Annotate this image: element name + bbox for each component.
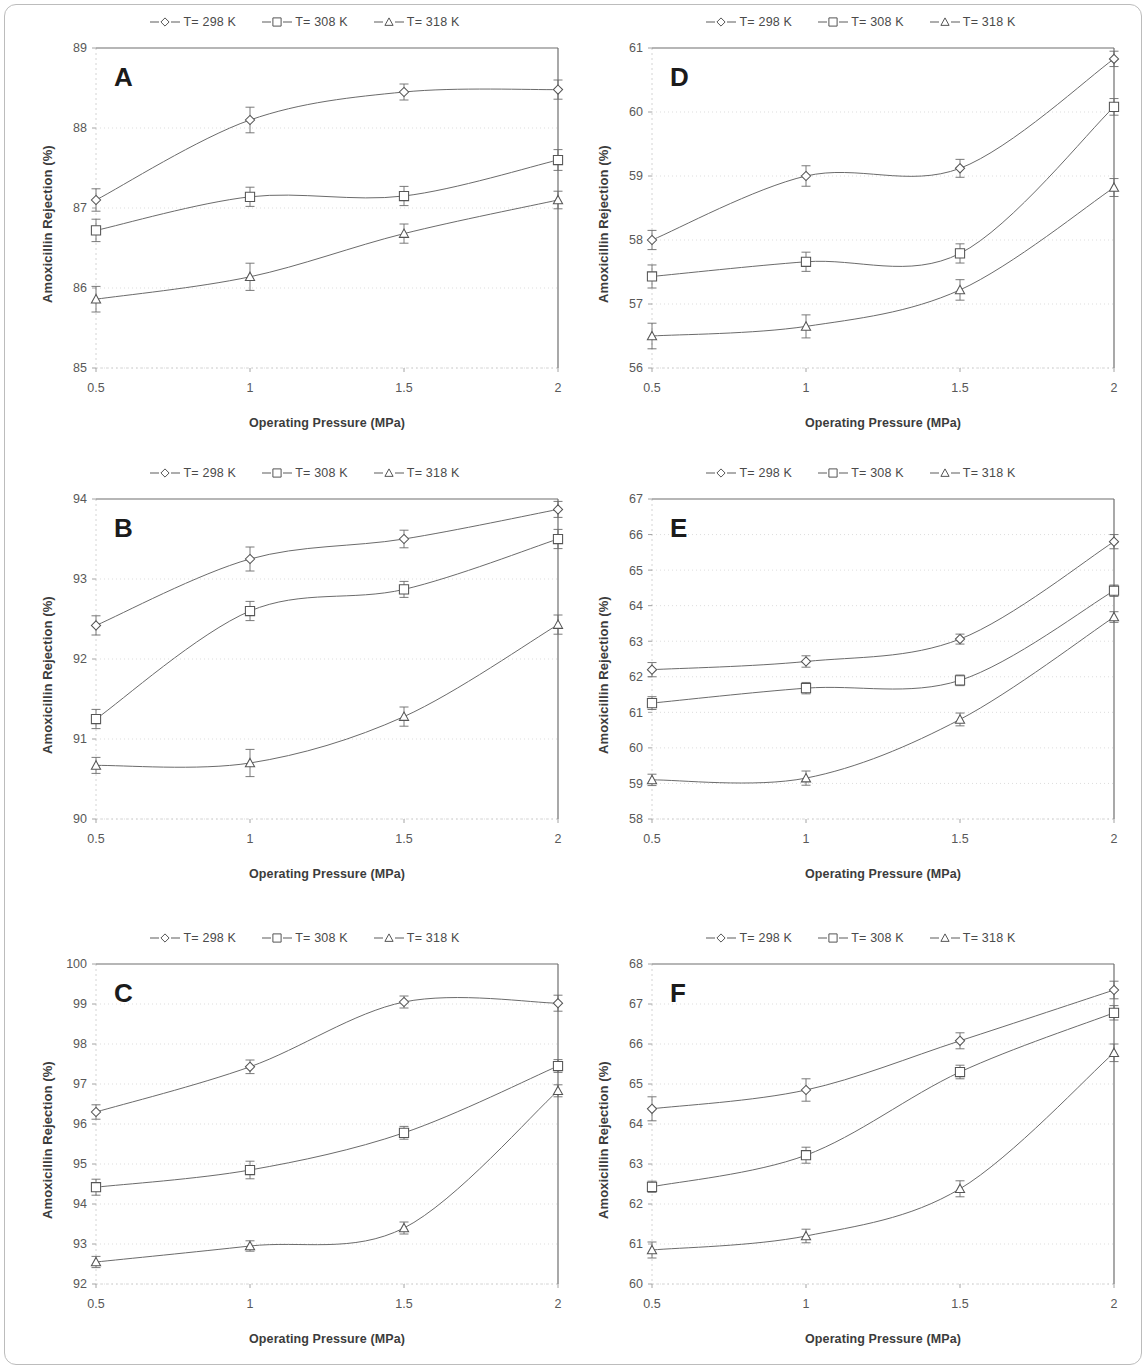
y-tick-label: 67 — [629, 997, 643, 1011]
y-tick-label: 92 — [73, 652, 87, 666]
series-line — [652, 617, 1114, 783]
legend-item-3[interactable]: T= 318 K — [374, 465, 460, 480]
y-tick-label: 61 — [629, 41, 643, 55]
chart-legend: T= 298 KT= 308 KT= 318 K — [18, 465, 592, 480]
data-point-triangle-open-icon — [1109, 1048, 1118, 1056]
series-line — [652, 59, 1114, 240]
x-tick-label: 1 — [803, 832, 810, 846]
chart-legend: T= 298 KT= 308 KT= 318 K — [18, 14, 592, 29]
y-tick-label: 62 — [629, 670, 643, 684]
data-point-diamond-open-icon — [91, 1107, 100, 1116]
plot-svg: 585960616263646566670.511.52 — [574, 483, 1148, 911]
panel-letter-b: B — [114, 513, 133, 544]
plot-area-a: 85868788890.511.52AAmoxicillin Rejection… — [18, 32, 592, 460]
data-point-diamond-open-icon — [91, 195, 100, 204]
legend-item-2[interactable]: T= 308 K — [262, 14, 348, 29]
data-point-square-open-icon — [955, 1067, 964, 1076]
diamond-open-icon — [706, 467, 736, 479]
y-tick-label: 60 — [629, 105, 643, 119]
x-tick-label: 0.5 — [87, 832, 104, 846]
series-line — [96, 200, 558, 299]
plot-area-c: 92939495969798991000.511.52CAmoxicillin … — [18, 948, 592, 1370]
y-tick-label: 92 — [73, 1277, 87, 1291]
data-point-square-open-icon — [553, 1061, 562, 1070]
data-point-diamond-open-icon — [245, 115, 254, 124]
series-3 — [91, 615, 562, 777]
legend-item-2[interactable]: T= 308 K — [818, 930, 904, 945]
data-point-diamond-open-icon — [553, 85, 562, 94]
data-point-diamond-open-icon — [647, 665, 656, 674]
square-open-icon — [818, 16, 848, 28]
chart-panel-c: T= 298 KT= 308 KT= 318 K9293949596979899… — [18, 920, 592, 1370]
data-point-square-open-icon — [955, 249, 964, 258]
legend-item-label: T= 298 K — [739, 15, 792, 29]
legend-item-1[interactable]: T= 298 K — [150, 14, 236, 29]
y-tick-label: 91 — [73, 732, 87, 746]
legend-item-2[interactable]: T= 308 K — [818, 465, 904, 480]
series-line — [652, 107, 1114, 277]
series-line — [652, 1053, 1114, 1250]
diamond-open-icon — [150, 467, 180, 479]
data-point-diamond-open-icon — [647, 235, 656, 244]
plot-svg: 92939495969798991000.511.52 — [18, 948, 592, 1370]
legend-item-3[interactable]: T= 318 K — [930, 930, 1016, 945]
series-line — [96, 89, 558, 200]
x-tick-label: 2 — [1111, 381, 1118, 395]
data-point-triangle-open-icon — [553, 620, 562, 628]
legend-item-3[interactable]: T= 318 K — [374, 930, 460, 945]
data-point-square-open-icon — [399, 585, 408, 594]
legend-item-1[interactable]: T= 298 K — [706, 465, 792, 480]
data-point-square-open-icon — [1109, 586, 1118, 595]
y-tick-label: 61 — [629, 706, 643, 720]
series-1 — [647, 981, 1118, 1121]
data-point-square-open-icon — [647, 272, 656, 281]
y-tick-label: 59 — [629, 777, 643, 791]
series-1 — [647, 535, 1118, 677]
legend-item-label: T= 308 K — [295, 466, 348, 480]
legend-item-label: T= 318 K — [963, 15, 1016, 29]
data-point-diamond-open-icon — [801, 171, 810, 180]
y-tick-label: 59 — [629, 169, 643, 183]
legend-item-2[interactable]: T= 308 K — [818, 14, 904, 29]
y-axis-title: Amoxicillin Rejection (%) — [40, 145, 55, 303]
x-tick-label: 2 — [1111, 832, 1118, 846]
legend-item-label: T= 298 K — [183, 931, 236, 945]
x-tick-label: 1 — [803, 381, 810, 395]
y-tick-label: 96 — [73, 1117, 87, 1131]
series-line — [96, 998, 558, 1112]
y-tick-label: 87 — [73, 201, 87, 215]
data-point-triangle-open-icon — [955, 1184, 964, 1192]
y-tick-label: 93 — [73, 1237, 87, 1251]
legend-item-3[interactable]: T= 318 K — [374, 14, 460, 29]
data-point-diamond-open-icon — [553, 999, 562, 1008]
x-tick-label: 2 — [1111, 1297, 1118, 1311]
y-tick-label: 60 — [629, 741, 643, 755]
legend-item-label: T= 318 K — [963, 466, 1016, 480]
legend-item-label: T= 318 K — [407, 15, 460, 29]
series-2 — [91, 529, 562, 728]
chart-legend: T= 298 KT= 308 KT= 318 K — [574, 930, 1148, 945]
panel-grid: T= 298 KT= 308 KT= 318 K85868788890.511.… — [0, 0, 1148, 1370]
x-tick-label: 0.5 — [87, 1297, 104, 1311]
legend-item-3[interactable]: T= 318 K — [930, 14, 1016, 29]
y-tick-label: 64 — [629, 1117, 643, 1131]
series-3 — [91, 1085, 562, 1268]
legend-item-2[interactable]: T= 308 K — [262, 930, 348, 945]
legend-item-2[interactable]: T= 308 K — [262, 465, 348, 480]
data-point-square-open-icon — [245, 192, 254, 201]
x-tick-label: 0.5 — [87, 381, 104, 395]
y-tick-label: 60 — [629, 1277, 643, 1291]
y-tick-label: 61 — [629, 1237, 643, 1251]
legend-item-label: T= 318 K — [963, 931, 1016, 945]
x-tick-label: 1.5 — [951, 832, 968, 846]
legend-item-1[interactable]: T= 298 K — [150, 930, 236, 945]
legend-item-1[interactable]: T= 298 K — [150, 465, 236, 480]
data-point-square-open-icon — [801, 684, 810, 693]
triangle-open-icon — [374, 467, 404, 479]
legend-item-1[interactable]: T= 298 K — [706, 930, 792, 945]
legend-item-3[interactable]: T= 318 K — [930, 465, 1016, 480]
data-point-diamond-open-icon — [399, 534, 408, 543]
panel-letter-c: C — [114, 978, 133, 1009]
legend-item-1[interactable]: T= 298 K — [706, 14, 792, 29]
x-axis-title: Operating Pressure (MPa) — [652, 416, 1114, 430]
